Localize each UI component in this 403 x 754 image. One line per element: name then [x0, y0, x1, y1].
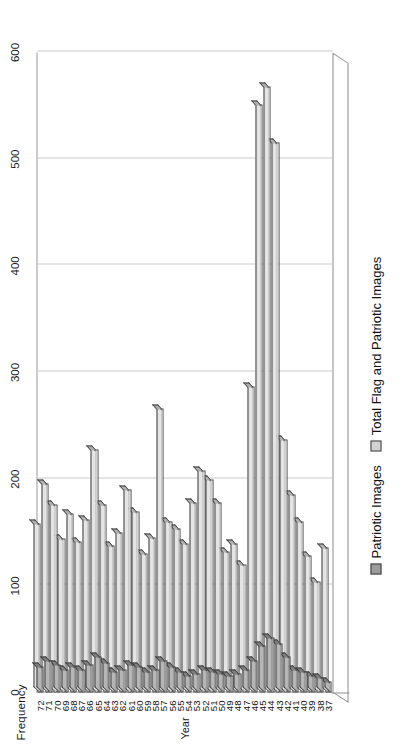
- bar-slot: [259, 52, 262, 692]
- legend-label: Total Flag and Patriotic Images: [368, 256, 383, 434]
- bar-slot: [328, 52, 331, 692]
- bar-slot: [111, 52, 114, 692]
- bar[interactable]: [201, 470, 204, 692]
- bar-slot: [172, 52, 175, 692]
- bar[interactable]: [328, 681, 331, 692]
- bar[interactable]: [218, 502, 221, 692]
- bar-slot: [262, 52, 265, 692]
- bar-slot: [122, 52, 125, 692]
- plot-floor-slab: [332, 52, 348, 702]
- bar[interactable]: [172, 666, 175, 692]
- bar-top-face: [266, 633, 271, 691]
- bar[interactable]: [303, 671, 306, 692]
- legend-item[interactable]: Patriotic Images: [368, 465, 383, 574]
- bar[interactable]: [320, 677, 323, 692]
- bar-slot: [325, 52, 328, 692]
- bar-slot: [279, 52, 282, 692]
- bar-slot: [254, 52, 257, 692]
- bar-slot: [193, 52, 196, 692]
- bar-slot: [303, 52, 306, 692]
- bar[interactable]: [279, 643, 282, 692]
- bar[interactable]: [147, 671, 150, 692]
- bar-slot: [57, 52, 60, 692]
- bar[interactable]: [213, 671, 216, 692]
- bar[interactable]: [139, 666, 142, 692]
- bar-slot: [103, 52, 106, 692]
- bar-slot: [73, 52, 76, 692]
- bar[interactable]: [188, 675, 191, 692]
- chart-page: Frequency 0100200300400500600 3738394041…: [0, 0, 403, 754]
- plot-area: [36, 52, 332, 692]
- bar-slot: [168, 52, 171, 692]
- bar[interactable]: [185, 543, 188, 692]
- bar-slot: [287, 52, 290, 692]
- bar[interactable]: [325, 547, 328, 692]
- category-axis-title: Year: [178, 717, 190, 739]
- bar-slot: [196, 52, 199, 692]
- plot-floor-cap: [331, 681, 349, 693]
- bar[interactable]: [295, 669, 298, 692]
- bar-group: [36, 52, 332, 692]
- bar[interactable]: [65, 669, 68, 692]
- bar-slot: [160, 52, 163, 692]
- bar[interactable]: [180, 671, 183, 692]
- bar-slot: [267, 52, 270, 692]
- bar-slot: [89, 52, 92, 692]
- bar[interactable]: [73, 666, 76, 692]
- value-tick-label: 100: [8, 576, 20, 595]
- bar[interactable]: [229, 675, 232, 692]
- bar-top-face: [94, 652, 99, 691]
- bar[interactable]: [89, 664, 92, 692]
- bar[interactable]: [57, 664, 60, 692]
- bar[interactable]: [246, 669, 249, 692]
- bar-slot: [163, 52, 166, 692]
- bar-face: [123, 670, 124, 691]
- bar[interactable]: [251, 386, 254, 692]
- bar-slot: [144, 52, 147, 692]
- bar[interactable]: [267, 86, 270, 692]
- bar-slot: [221, 52, 224, 692]
- bar[interactable]: [237, 673, 240, 692]
- bar[interactable]: [81, 669, 84, 692]
- legend-item[interactable]: Total Flag and Patriotic Images: [368, 256, 383, 450]
- bar[interactable]: [163, 660, 166, 692]
- value-tick-label: 500: [8, 149, 20, 168]
- bar[interactable]: [205, 669, 208, 692]
- bar[interactable]: [209, 479, 212, 692]
- bar-slot: [106, 52, 109, 692]
- bar[interactable]: [106, 662, 109, 692]
- bar-top-face: [258, 642, 263, 691]
- bar[interactable]: [48, 660, 51, 692]
- bar[interactable]: [287, 656, 290, 692]
- bar[interactable]: [259, 104, 262, 692]
- legend-label: Patriotic Images: [368, 465, 383, 558]
- bar[interactable]: [114, 671, 117, 692]
- bar[interactable]: [98, 656, 101, 692]
- bar[interactable]: [270, 637, 273, 692]
- bar-face: [164, 661, 165, 691]
- bar-slot: [98, 52, 101, 692]
- bar[interactable]: [193, 502, 196, 692]
- bar[interactable]: [122, 669, 125, 692]
- bar-slot: [185, 52, 188, 692]
- gridline: [37, 50, 332, 51]
- bar-slot: [251, 52, 254, 692]
- bar[interactable]: [300, 521, 303, 692]
- bar[interactable]: [155, 669, 158, 692]
- bar[interactable]: [262, 645, 265, 692]
- bar[interactable]: [311, 675, 314, 692]
- bar-slot: [229, 52, 232, 692]
- bar[interactable]: [221, 673, 224, 692]
- bar[interactable]: [131, 664, 134, 692]
- bar-slot: [114, 52, 117, 692]
- bar-face: [90, 665, 91, 691]
- bar-top-face: [283, 652, 288, 691]
- bar[interactable]: [254, 660, 257, 692]
- bar[interactable]: [196, 673, 199, 692]
- bar[interactable]: [160, 408, 163, 692]
- bar-face: [238, 674, 239, 691]
- bar[interactable]: [292, 494, 295, 692]
- value-tick-label: 300: [8, 362, 20, 381]
- bar[interactable]: [275, 142, 278, 692]
- bar[interactable]: [40, 666, 43, 692]
